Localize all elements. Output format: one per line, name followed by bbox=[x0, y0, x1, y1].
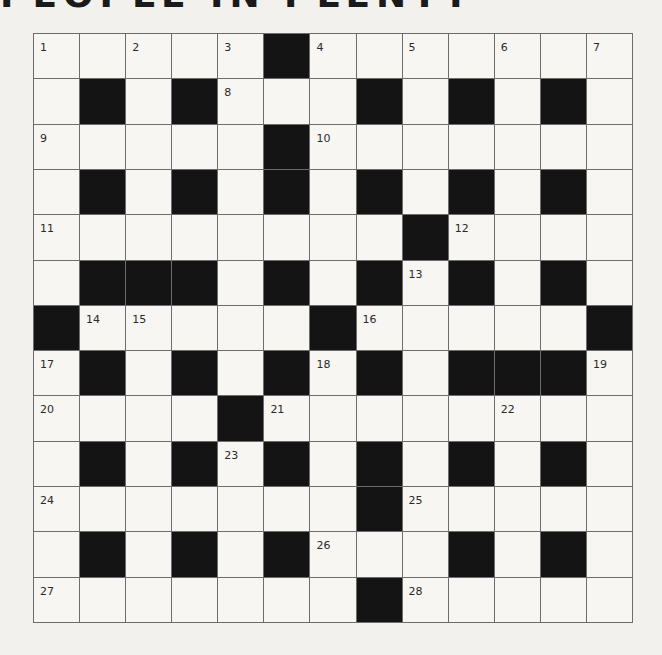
grid-cell[interactable] bbox=[541, 215, 586, 259]
grid-cell[interactable] bbox=[495, 306, 540, 350]
grid-cell[interactable] bbox=[218, 487, 263, 531]
grid-cell[interactable] bbox=[403, 306, 448, 350]
grid-cell[interactable] bbox=[541, 487, 586, 531]
grid-cell[interactable] bbox=[172, 215, 217, 259]
grid-cell[interactable] bbox=[587, 170, 632, 214]
grid-cell[interactable] bbox=[80, 34, 125, 78]
grid-cell[interactable] bbox=[357, 34, 402, 78]
grid-cell[interactable] bbox=[126, 442, 171, 486]
grid-cell[interactable] bbox=[218, 261, 263, 305]
grid-cell[interactable] bbox=[126, 125, 171, 169]
grid-cell[interactable]: 8 bbox=[218, 79, 263, 123]
grid-cell[interactable]: 19 bbox=[587, 351, 632, 395]
grid-cell[interactable] bbox=[541, 125, 586, 169]
grid-cell[interactable]: 25 bbox=[403, 487, 448, 531]
grid-cell[interactable] bbox=[357, 125, 402, 169]
grid-cell[interactable] bbox=[310, 442, 355, 486]
grid-cell[interactable] bbox=[403, 532, 448, 576]
grid-cell[interactable] bbox=[126, 351, 171, 395]
grid-cell[interactable] bbox=[449, 578, 494, 622]
grid-cell[interactable]: 14 bbox=[80, 306, 125, 350]
grid-cell[interactable] bbox=[403, 351, 448, 395]
grid-cell[interactable] bbox=[34, 442, 79, 486]
grid-cell[interactable] bbox=[172, 396, 217, 440]
grid-cell[interactable] bbox=[218, 215, 263, 259]
grid-cell[interactable] bbox=[310, 396, 355, 440]
grid-cell[interactable] bbox=[587, 532, 632, 576]
grid-cell[interactable]: 2 bbox=[126, 34, 171, 78]
grid-cell[interactable] bbox=[264, 578, 309, 622]
grid-cell[interactable]: 17 bbox=[34, 351, 79, 395]
grid-cell[interactable] bbox=[587, 396, 632, 440]
grid-cell[interactable]: 7 bbox=[587, 34, 632, 78]
grid-cell[interactable] bbox=[587, 125, 632, 169]
grid-cell[interactable]: 28 bbox=[403, 578, 448, 622]
grid-cell[interactable] bbox=[495, 578, 540, 622]
grid-cell[interactable]: 10 bbox=[310, 125, 355, 169]
grid-cell[interactable]: 1 bbox=[34, 34, 79, 78]
grid-cell[interactable] bbox=[172, 578, 217, 622]
grid-cell[interactable] bbox=[449, 487, 494, 531]
grid-cell[interactable]: 9 bbox=[34, 125, 79, 169]
grid-cell[interactable]: 16 bbox=[357, 306, 402, 350]
grid-cell[interactable]: 22 bbox=[495, 396, 540, 440]
grid-cell[interactable]: 15 bbox=[126, 306, 171, 350]
grid-cell[interactable] bbox=[310, 170, 355, 214]
grid-cell[interactable]: 23 bbox=[218, 442, 263, 486]
grid-cell[interactable] bbox=[310, 578, 355, 622]
grid-cell[interactable]: 12 bbox=[449, 215, 494, 259]
grid-cell[interactable] bbox=[264, 306, 309, 350]
grid-cell[interactable] bbox=[495, 79, 540, 123]
grid-cell[interactable] bbox=[80, 215, 125, 259]
grid-cell[interactable]: 20 bbox=[34, 396, 79, 440]
grid-cell[interactable] bbox=[218, 351, 263, 395]
grid-cell[interactable] bbox=[126, 396, 171, 440]
grid-cell[interactable] bbox=[587, 578, 632, 622]
grid-cell[interactable] bbox=[449, 306, 494, 350]
grid-cell[interactable]: 18 bbox=[310, 351, 355, 395]
grid-cell[interactable] bbox=[495, 170, 540, 214]
grid-cell[interactable] bbox=[218, 125, 263, 169]
grid-cell[interactable]: 3 bbox=[218, 34, 263, 78]
grid-cell[interactable]: 4 bbox=[310, 34, 355, 78]
grid-cell[interactable] bbox=[541, 34, 586, 78]
grid-cell[interactable] bbox=[310, 261, 355, 305]
grid-cell[interactable] bbox=[541, 578, 586, 622]
grid-cell[interactable] bbox=[34, 532, 79, 576]
grid-cell[interactable] bbox=[495, 215, 540, 259]
grid-cell[interactable] bbox=[126, 170, 171, 214]
grid-cell[interactable] bbox=[541, 306, 586, 350]
grid-cell[interactable] bbox=[541, 396, 586, 440]
grid-cell[interactable]: 13 bbox=[403, 261, 448, 305]
grid-cell[interactable] bbox=[218, 578, 263, 622]
grid-cell[interactable] bbox=[126, 79, 171, 123]
grid-cell[interactable] bbox=[218, 532, 263, 576]
grid-cell[interactable]: 21 bbox=[264, 396, 309, 440]
grid-cell[interactable] bbox=[403, 442, 448, 486]
grid-cell[interactable] bbox=[34, 170, 79, 214]
grid-cell[interactable] bbox=[495, 487, 540, 531]
grid-cell[interactable]: 6 bbox=[495, 34, 540, 78]
grid-cell[interactable] bbox=[80, 396, 125, 440]
grid-cell[interactable] bbox=[218, 306, 263, 350]
grid-cell[interactable] bbox=[218, 170, 263, 214]
grid-cell[interactable] bbox=[587, 79, 632, 123]
grid-cell[interactable] bbox=[126, 487, 171, 531]
grid-cell[interactable] bbox=[495, 532, 540, 576]
grid-cell[interactable] bbox=[264, 215, 309, 259]
grid-cell[interactable] bbox=[172, 34, 217, 78]
grid-cell[interactable] bbox=[495, 261, 540, 305]
grid-cell[interactable] bbox=[310, 487, 355, 531]
grid-cell[interactable]: 24 bbox=[34, 487, 79, 531]
grid-cell[interactable] bbox=[357, 215, 402, 259]
grid-cell[interactable] bbox=[264, 487, 309, 531]
grid-cell[interactable] bbox=[80, 578, 125, 622]
grid-cell[interactable] bbox=[34, 261, 79, 305]
grid-cell[interactable] bbox=[172, 125, 217, 169]
grid-cell[interactable] bbox=[495, 442, 540, 486]
grid-cell[interactable] bbox=[172, 306, 217, 350]
grid-cell[interactable] bbox=[126, 215, 171, 259]
grid-cell[interactable] bbox=[264, 79, 309, 123]
grid-cell[interactable] bbox=[34, 79, 79, 123]
grid-cell[interactable] bbox=[403, 170, 448, 214]
